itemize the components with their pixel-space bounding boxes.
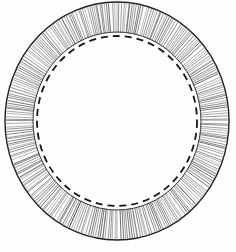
annulus-diagram xyxy=(0,0,236,252)
figure-root xyxy=(0,0,236,252)
